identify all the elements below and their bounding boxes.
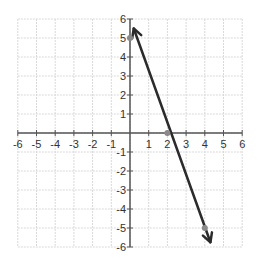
x-tick-label: 1 — [146, 138, 152, 150]
x-tick-label: 3 — [183, 138, 189, 150]
y-tick-label: 5 — [120, 32, 126, 44]
y-tick-label: 2 — [120, 89, 126, 101]
x-tick-label: 5 — [220, 138, 226, 150]
y-tick-label: 6 — [120, 13, 126, 25]
y-tick-label: -5 — [116, 222, 126, 234]
data-point — [164, 130, 170, 136]
y-tick-label: -2 — [116, 165, 126, 177]
coordinate-graph: -6-5-4-3-2-1123456 -6-5-4-3-2-1123456 — [0, 0, 260, 267]
data-point — [202, 225, 208, 231]
y-tick-label: 4 — [120, 51, 126, 63]
y-tick-label: -4 — [116, 203, 126, 215]
data-point — [127, 35, 133, 41]
line-segment — [134, 29, 211, 243]
x-tick-label: -6 — [13, 138, 23, 150]
y-tick-label: -3 — [116, 184, 126, 196]
plotted-line — [127, 29, 212, 243]
y-tick-label: 1 — [120, 108, 126, 120]
x-tick-labels: -6-5-4-3-2-1123456 — [13, 138, 245, 150]
axes — [18, 19, 242, 247]
x-tick-label: -3 — [69, 138, 79, 150]
y-tick-label: -6 — [116, 241, 126, 253]
y-tick-label: 3 — [120, 70, 126, 82]
x-tick-label: 2 — [164, 138, 170, 150]
x-tick-label: -1 — [106, 138, 116, 150]
x-tick-label: 4 — [202, 138, 208, 150]
x-tick-label: 6 — [239, 138, 245, 150]
x-tick-label: -4 — [50, 138, 60, 150]
x-tick-label: -2 — [88, 138, 98, 150]
y-tick-label: -1 — [116, 146, 126, 158]
x-tick-label: -5 — [32, 138, 42, 150]
